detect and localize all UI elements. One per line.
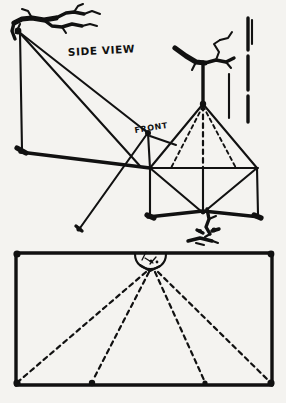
side-view-tree-branch	[12, 4, 100, 39]
plan-view-guy-lines	[19, 272, 269, 381]
plan-view-tree-circle	[135, 252, 166, 271]
label-side-view: SIDE VIEW	[67, 42, 135, 58]
plan-view-top-sketch	[188, 238, 218, 245]
tent-diagram-svg: SIDE VIEW FRONT	[0, 0, 286, 403]
front-view-tree	[175, 18, 252, 122]
diagram-sheet: SIDE VIEW FRONT	[0, 0, 286, 403]
front-view-tent	[147, 101, 261, 218]
label-front: FRONT	[134, 121, 169, 135]
plan-view-rectangle	[13, 250, 274, 386]
